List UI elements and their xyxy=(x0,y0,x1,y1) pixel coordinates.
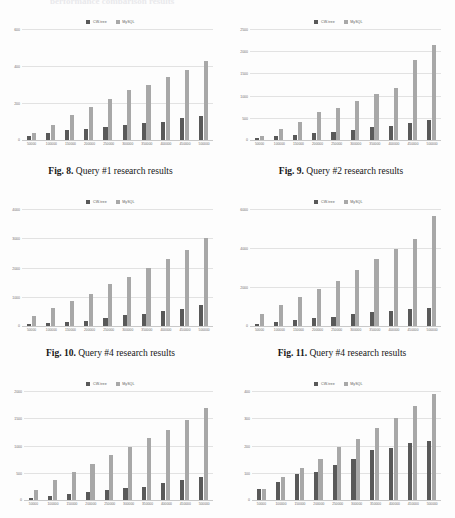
chart-fig9: CW-tree MySQL 25002000150010005000500001… xyxy=(236,16,441,141)
x-axis-tick-label: 300000 xyxy=(122,328,132,332)
bar-cw-tree xyxy=(389,126,393,140)
bar-group xyxy=(103,209,112,326)
bar-cw-tree xyxy=(389,311,393,326)
bar-series-container xyxy=(252,391,441,500)
x-axis-tick-label: 150000 xyxy=(294,502,304,506)
bar-mysql xyxy=(355,101,359,140)
bar-group xyxy=(123,29,132,140)
bar-cw-tree xyxy=(370,450,374,500)
bar-cw-tree xyxy=(389,448,393,500)
bar-mysql xyxy=(413,406,417,500)
legend-item-cw-tree: CW-tree xyxy=(86,382,106,386)
x-axis-tick-label: 300000 xyxy=(123,502,133,506)
x-axis-tick-label: 300000 xyxy=(351,502,361,506)
legend-item-mysql: MySQL xyxy=(344,20,363,24)
bar-mysql xyxy=(260,314,264,326)
bar-group xyxy=(123,209,132,326)
bar-cw-tree xyxy=(199,116,203,140)
bar-cw-tree xyxy=(408,443,412,500)
x-axis-tick-label: 100000 xyxy=(274,142,284,146)
x-axis-tick-label: 500000 xyxy=(427,328,437,332)
x-axis-tick-label: 150000 xyxy=(293,328,303,332)
bar-mysql xyxy=(185,420,189,500)
legend-item-mysql: MySQL xyxy=(116,382,135,386)
y-axis-tick-label: 3000 xyxy=(12,237,22,241)
x-axis-labels: 5000010000015000020000025000030000035000… xyxy=(250,140,441,146)
bar-mysql xyxy=(394,249,398,326)
bar-cw-tree xyxy=(84,129,88,140)
bar-cw-tree xyxy=(161,483,165,500)
bar-mysql xyxy=(298,122,302,140)
y-axis-tick-label: 400 xyxy=(14,65,22,69)
figure-fig13: CW-tree MySQL 40030020010005000010000015… xyxy=(236,378,441,501)
bar-mysql xyxy=(204,61,208,140)
bar-cw-tree xyxy=(427,120,431,140)
bar-group xyxy=(180,209,189,326)
legend-swatch-icon-cw-tree xyxy=(86,382,90,386)
x-axis-tick-label: 450000 xyxy=(408,328,418,332)
legend-item-mysql: MySQL xyxy=(344,382,363,386)
x-axis-tick-label: 50000 xyxy=(29,502,39,506)
bar-series-container xyxy=(250,209,441,326)
bar-group xyxy=(333,391,342,500)
bar-mysql xyxy=(279,305,283,326)
bar-group xyxy=(389,209,398,326)
legend-item-mysql: MySQL xyxy=(344,200,363,204)
x-axis-tick-label: 500000 xyxy=(199,142,209,146)
bar-mysql xyxy=(374,259,378,326)
legend-fig12: CW-tree MySQL xyxy=(8,378,213,389)
y-axis-tick-label: 2000 xyxy=(240,286,250,290)
bar-series-container xyxy=(24,391,213,500)
caption-text-fig11: Query #4 research results xyxy=(309,348,406,358)
bar-group xyxy=(389,391,398,500)
bar-group xyxy=(331,209,340,326)
x-axis-tick-label: 200000 xyxy=(84,142,94,146)
bar-cw-tree xyxy=(199,477,203,500)
y-axis-tick-label: 1000 xyxy=(12,296,22,300)
bar-group xyxy=(389,29,398,140)
bar-group xyxy=(257,391,266,500)
legend-label-cw-tree: CW-tree xyxy=(321,382,335,386)
x-axis-tick-label: 150000 xyxy=(65,142,75,146)
bar-group xyxy=(67,391,76,500)
bar-cw-tree xyxy=(351,459,355,500)
bar-group xyxy=(142,209,151,326)
bar-group xyxy=(293,209,302,326)
x-axis-tick-label: 100000 xyxy=(48,502,58,506)
legend-item-cw-tree: CW-tree xyxy=(86,20,106,24)
x-axis-tick-label: 350000 xyxy=(141,142,151,146)
x-axis-tick-label: 150000 xyxy=(65,328,75,332)
x-axis-tick-label: 500000 xyxy=(427,502,437,506)
bar-cw-tree xyxy=(295,474,299,500)
caption-text-fig8: Query #1 research results xyxy=(76,166,173,176)
bar-group xyxy=(27,209,36,326)
bar-mysql xyxy=(89,294,93,326)
bar-group xyxy=(370,391,379,500)
x-axis-tick-label: 500000 xyxy=(199,502,209,506)
figure-fig9: CW-tree MySQL 25002000150010005000500001… xyxy=(236,16,441,141)
bar-cw-tree xyxy=(103,318,107,326)
x-axis-tick-label: 50000 xyxy=(27,142,37,146)
plot-area-fig13: 4003002001000500001000001500002000002500… xyxy=(252,391,441,501)
bar-group xyxy=(46,29,55,140)
bar-mysql xyxy=(166,77,170,140)
bar-group xyxy=(29,391,38,500)
bar-cw-tree xyxy=(312,133,316,140)
legend-item-mysql: MySQL xyxy=(116,20,135,24)
bar-mysql xyxy=(53,480,57,500)
bar-mysql xyxy=(279,129,283,140)
bar-mysql xyxy=(394,88,398,140)
bar-mysql xyxy=(317,112,321,140)
bar-series-container xyxy=(22,29,213,140)
bar-mysql xyxy=(336,108,340,140)
bar-group xyxy=(408,29,417,140)
caption-label-fig10: Fig. 10. xyxy=(46,348,76,358)
bar-group xyxy=(199,29,208,140)
bar-mysql xyxy=(394,418,398,500)
legend-label-cw-tree: CW-tree xyxy=(321,20,335,24)
bar-group xyxy=(274,29,283,140)
x-axis-tick-label: 500000 xyxy=(427,142,437,146)
chart-fig8: CW-tree MySQL 60040020005000010000015000… xyxy=(8,16,213,141)
legend-swatch-icon-mysql xyxy=(116,382,120,386)
bar-mysql xyxy=(70,301,74,326)
